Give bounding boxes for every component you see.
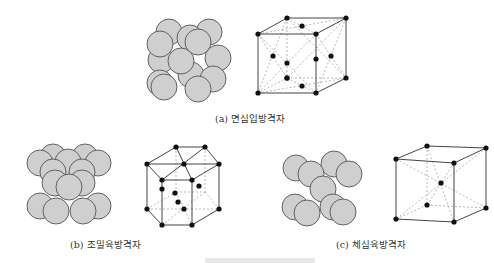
bcc-sphere-model — [282, 151, 362, 226]
fcc-sphere-model — [147, 19, 231, 102]
caption-fcc: (a) 면심입방격자 — [215, 111, 285, 125]
hcp-sphere-model — [27, 144, 111, 224]
crystal-structure-figure — [0, 0, 494, 263]
bcc-lattice-diagram — [393, 143, 488, 224]
caption-hcp: (b) 조밀육방격자 — [70, 237, 141, 251]
hcp-lattice-diagram — [144, 144, 221, 227]
clipped-figure-caption — [205, 258, 315, 263]
fcc-lattice-diagram — [255, 15, 348, 95]
caption-bcc: (c) 체심육방격자 — [336, 237, 406, 251]
